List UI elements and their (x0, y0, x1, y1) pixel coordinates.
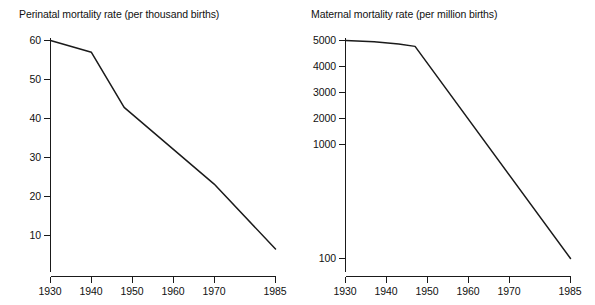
y-tick-label: 4000 (313, 60, 336, 72)
data-series-perinatal (51, 41, 276, 249)
x-tick-label: 1960 (457, 285, 480, 297)
y-tick-labels: 60 50 40 30 20 10 (30, 34, 42, 241)
y-tick-label: 1000 (313, 138, 336, 150)
x-tick-label: 1930 (334, 285, 357, 297)
y-tick-label: 40 (30, 112, 42, 124)
chart-svg-maternal: 5000 4000 3000 2000 1000 100 1930 1940 (297, 0, 595, 305)
x-tick-label: 1930 (39, 285, 62, 297)
x-tick-label: 1970 (498, 285, 521, 297)
y-tick-label: 10 (30, 229, 42, 241)
data-series-maternal (346, 41, 571, 259)
x-tick-label: 1940 (80, 285, 103, 297)
y-tick-label: 30 (30, 151, 42, 163)
x-tick-label: 1970 (203, 285, 226, 297)
y-tick-label: 20 (30, 190, 42, 202)
y-tick-labels: 5000 4000 3000 2000 1000 100 (313, 34, 336, 264)
x-tick-label: 1950 (121, 285, 144, 297)
x-tick-label: 1960 (162, 285, 185, 297)
chart-panel-maternal: Maternal mortality rate (per million bir… (297, 0, 595, 305)
chart-panel-perinatal: Perinatal mortality rate (per thousand b… (0, 0, 298, 305)
y-tick-marks (339, 41, 345, 259)
x-tick-marks (346, 277, 571, 283)
y-tick-label: 3000 (313, 86, 336, 98)
y-tick-marks (44, 41, 50, 236)
figure-canvas: Perinatal mortality rate (per thousand b… (0, 0, 595, 305)
y-tick-label: 2000 (313, 112, 336, 124)
x-tick-marks (51, 277, 276, 283)
x-tick-labels: 1930 1940 1950 1960 1970 1985 (39, 285, 287, 297)
chart-svg-perinatal: 60 50 40 30 20 10 1930 1940 1950 (0, 0, 298, 305)
x-tick-label: 1985 (559, 285, 582, 297)
y-tick-label: 100 (319, 252, 336, 264)
y-tick-label: 5000 (313, 34, 336, 46)
x-tick-label: 1940 (375, 285, 398, 297)
x-tick-labels: 1930 1940 1950 1960 1970 1985 (334, 285, 582, 297)
x-tick-label: 1950 (416, 285, 439, 297)
y-tick-label: 50 (30, 73, 42, 85)
x-tick-label: 1985 (264, 285, 287, 297)
y-tick-label: 60 (30, 34, 42, 46)
